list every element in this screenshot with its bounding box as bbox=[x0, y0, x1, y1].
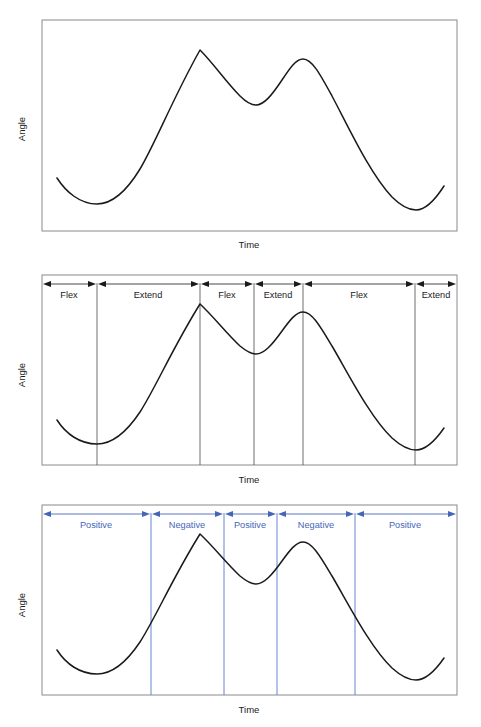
panel-flex-extend: Flex Extend Flex Extend Flex Extend Angl… bbox=[0, 257, 481, 495]
x-axis-label: Time bbox=[239, 704, 260, 715]
segment-label-5: Flex bbox=[350, 290, 368, 300]
segment-label-6: Extend bbox=[422, 290, 451, 300]
x-axis-label: Time bbox=[239, 474, 260, 485]
panel-3-svg: Positive Negative Positive Negative Posi… bbox=[0, 494, 481, 727]
segment-label-2: Extend bbox=[134, 290, 163, 300]
segment-label-4: Negative bbox=[298, 520, 334, 530]
plot-frame bbox=[42, 275, 457, 465]
segment-label-4: Extend bbox=[264, 290, 293, 300]
x-axis-label: Time bbox=[239, 239, 260, 250]
y-axis-label: Angle bbox=[16, 593, 27, 617]
plot-frame bbox=[42, 505, 457, 695]
y-axis-label: Angle bbox=[16, 117, 27, 141]
segment-label-3: Positive bbox=[234, 520, 266, 530]
panel-plain-plot: Angle Time bbox=[0, 4, 481, 254]
y-axis-label: Angle bbox=[16, 363, 27, 387]
panel-2-svg: Flex Extend Flex Extend Flex Extend Angl… bbox=[0, 257, 481, 495]
figure-container: Angle Time bbox=[0, 0, 481, 727]
segment-label-1: Flex bbox=[60, 290, 78, 300]
segment-label-2: Negative bbox=[169, 520, 205, 530]
segment-label-1: Positive bbox=[80, 520, 112, 530]
segment-label-5: Positive bbox=[389, 520, 421, 530]
segment-label-3: Flex bbox=[218, 290, 236, 300]
panel-positive-negative: Positive Negative Positive Negative Posi… bbox=[0, 494, 481, 727]
panel-1-svg: Angle Time bbox=[0, 4, 481, 254]
